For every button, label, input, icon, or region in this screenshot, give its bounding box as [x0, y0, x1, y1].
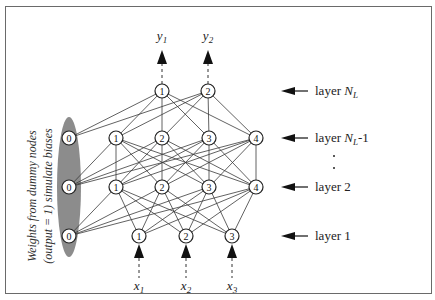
svg-text:4: 4: [254, 133, 259, 144]
svg-text:3: 3: [207, 133, 212, 144]
neuron-node: 3: [202, 131, 216, 145]
neuron-node: 2: [155, 131, 169, 145]
output-label: y2: [201, 28, 214, 45]
neuron-node: 2: [201, 84, 215, 98]
svg-text:3: 3: [207, 182, 212, 193]
input-arrow-icon: [227, 244, 237, 258]
left-arrow-icon: [281, 183, 295, 191]
svg-text:1: 1: [160, 86, 165, 97]
side-note-line1: Weights from dummy nodes: [25, 130, 39, 262]
bias-node: 0: [62, 180, 76, 194]
svg-text:0: 0: [67, 133, 72, 144]
ellipsis-dot: [333, 155, 335, 157]
svg-text:3: 3: [230, 231, 235, 242]
layer-label-1: layer 1: [281, 228, 351, 243]
connection-edges: [69, 91, 256, 236]
svg-text:layer NL-1: layer NL-1: [315, 130, 369, 147]
edge: [69, 91, 208, 138]
neuron-node: 4: [249, 180, 263, 194]
neuron-node: 1: [109, 131, 123, 145]
layer-labels: layer NLlayer NL-1layer 2layer 1: [281, 83, 369, 243]
input-output-arrows: y1y2x1x2x3: [133, 28, 238, 295]
bias-node: 0: [62, 131, 76, 145]
output-arrow-icon: [157, 50, 167, 64]
input-arrow-icon: [134, 244, 144, 258]
left-arrow-icon: [281, 87, 295, 95]
edge: [139, 187, 256, 236]
svg-text:2: 2: [160, 182, 165, 193]
edge: [232, 187, 256, 236]
svg-text:1: 1: [137, 231, 142, 242]
neuron-node: 3: [202, 180, 216, 194]
edge: [116, 187, 139, 236]
bias-node: 0: [62, 229, 76, 243]
svg-text:2: 2: [160, 133, 165, 144]
ellipsis-dot: [333, 167, 335, 169]
neuron-node: 4: [249, 131, 263, 145]
neuron-node: 2: [179, 229, 193, 243]
edge: [139, 187, 162, 236]
input-arrow-icon: [181, 244, 191, 258]
layer-label-NL-1: layer NL-1: [281, 130, 369, 147]
neuron-node: 3: [225, 229, 239, 243]
edge: [69, 138, 209, 187]
input-label: x1: [133, 278, 144, 295]
side-note-line2: (output = 1) simulate biases: [41, 128, 55, 264]
svg-text:0: 0: [67, 231, 72, 242]
svg-text:1: 1: [114, 182, 119, 193]
layer-label-2: layer 2: [281, 179, 351, 194]
side-note: Weights from dummy nodes (output = 1) si…: [25, 128, 55, 264]
svg-text:1: 1: [114, 133, 119, 144]
edge: [208, 91, 256, 138]
svg-text:2: 2: [184, 231, 189, 242]
svg-text:4: 4: [254, 182, 259, 193]
input-label: x2: [180, 278, 192, 295]
output-arrow-icon: [203, 50, 213, 64]
output-label: y1: [155, 28, 167, 45]
svg-text:layer 1: layer 1: [315, 228, 351, 243]
edge: [116, 187, 186, 236]
neuron-node: 1: [155, 84, 169, 98]
neuron-node: 1: [132, 229, 146, 243]
neuron-node: 2: [155, 180, 169, 194]
svg-text:2: 2: [206, 86, 211, 97]
left-arrow-icon: [281, 232, 295, 240]
neuron-node: 1: [109, 180, 123, 194]
svg-text:layer NL: layer NL: [315, 83, 358, 100]
svg-text:layer 2: layer 2: [315, 179, 351, 194]
svg-text:0: 0: [67, 182, 72, 193]
input-label: x3: [226, 278, 238, 295]
left-arrow-icon: [281, 134, 295, 142]
neural-network-diagram: Weights from dummy nodes (output = 1) si…: [0, 0, 435, 300]
layer-label-NL: layer NL: [281, 83, 358, 100]
